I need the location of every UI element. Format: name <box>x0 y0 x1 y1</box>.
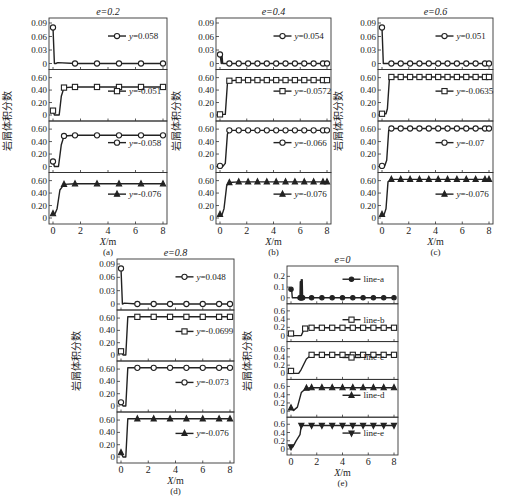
data-point-marker <box>340 423 345 428</box>
y-tick-label: 0.20 <box>198 201 214 211</box>
data-point-marker <box>311 179 316 184</box>
legend-label: y=-0.076 <box>128 189 162 199</box>
data-point-marker <box>167 416 172 421</box>
data-point-marker <box>283 78 288 83</box>
data-point-marker <box>283 128 288 133</box>
y-tick-label: 0.60 <box>198 124 214 134</box>
data-point-marker <box>311 61 316 66</box>
y-tick-label: 0 <box>281 293 286 303</box>
legend-label: y=-0.0699 <box>196 326 234 336</box>
data-point-marker <box>398 61 403 66</box>
data-point-marker <box>50 25 55 30</box>
y-tick-label: 0.60 <box>360 73 376 83</box>
data-point-marker <box>292 179 297 184</box>
data-point-marker <box>398 176 403 181</box>
data-point-marker <box>61 133 66 138</box>
panel-title: e=0.4 <box>262 6 286 17</box>
legend-entry: y=-0.076 <box>436 189 490 199</box>
subplot-1: 00.10.2line-a <box>274 266 398 304</box>
data-point-marker <box>264 61 269 66</box>
data-point-marker <box>50 211 55 216</box>
data-point-marker <box>200 314 205 319</box>
x-tick-label: 6 <box>460 225 465 236</box>
data-point-marker <box>274 78 279 83</box>
legend-entry: y=-0.066 <box>274 138 328 148</box>
data-point-marker <box>217 314 222 319</box>
data-point-marker <box>389 74 394 79</box>
x-axis-label: X/m <box>166 475 184 486</box>
data-point-marker <box>135 301 140 306</box>
data-point-marker <box>302 128 307 133</box>
data-point-marker <box>227 365 232 370</box>
y-tick-label: 0.60 <box>31 176 47 186</box>
y-tick-label: 0.03 <box>99 286 115 296</box>
y-tick-label: 0.06 <box>99 272 115 282</box>
y-tick-label: 0.40 <box>198 188 214 198</box>
data-point-marker <box>381 385 386 390</box>
data-point-marker <box>351 296 355 300</box>
y-tick-label: 0.20 <box>360 149 376 159</box>
subplot-3: 00.200.400.60y=-0.058 <box>31 121 167 173</box>
data-point-marker <box>303 326 308 331</box>
y-tick-label: 0.6 <box>274 381 286 391</box>
x-tick-label: 4 <box>271 225 276 236</box>
data-point-marker <box>379 211 384 216</box>
x-axis-label: X/m <box>264 236 282 247</box>
x-tick-label: 6 <box>133 225 138 236</box>
data-point-marker <box>227 314 232 319</box>
y-tick-label: 0.60 <box>31 124 47 134</box>
data-point-marker <box>392 296 396 300</box>
y-tick-label: 0.20 <box>99 440 115 450</box>
legend-marker <box>442 33 447 38</box>
x-tick-label: 4 <box>340 456 345 467</box>
legend-entry: line-a <box>343 274 385 284</box>
y-tick-label: 0.40 <box>31 85 47 95</box>
data-point-marker <box>398 74 403 79</box>
data-point-marker <box>426 176 431 181</box>
x-tick-label: 0 <box>119 464 124 475</box>
figure-canvas: e=0.200.030.060.09y=0.05800.200.400.60y=… <box>0 0 507 498</box>
data-point-marker <box>473 176 478 181</box>
y-tick-label: 0.60 <box>99 364 115 374</box>
data-point-marker <box>302 179 307 184</box>
panel-a: e=0.200.030.060.09y=0.05800.200.400.60y=… <box>1 6 167 257</box>
legend-label: line-d <box>364 390 385 400</box>
y-tick-label: 0.40 <box>360 188 376 198</box>
legend-marker <box>114 140 119 145</box>
data-point-marker <box>426 61 431 66</box>
data-point-marker <box>299 423 304 428</box>
data-point-marker <box>50 159 55 164</box>
y-tick-label: 0.2 <box>274 271 285 281</box>
data-point-marker <box>417 61 422 66</box>
legend-marker <box>442 140 447 145</box>
data-point-marker <box>217 301 222 306</box>
y-tick-label: 0 <box>43 162 48 172</box>
x-axis-label: X/m <box>99 236 117 247</box>
x-tick-label: 0 <box>289 456 294 467</box>
x-tick-label: 2 <box>406 225 411 236</box>
data-point-marker <box>350 325 355 330</box>
y-tick-label: 0.60 <box>99 313 115 323</box>
data-point-marker <box>61 85 66 90</box>
data-point-marker <box>324 61 329 66</box>
subplot-2: 00.200.400.60y=-0.051 <box>31 70 167 122</box>
data-point-marker <box>417 126 422 131</box>
data-point-marker <box>292 61 297 66</box>
y-tick-label: 0 <box>372 213 377 223</box>
data-point-marker <box>289 287 293 291</box>
data-point-marker <box>50 108 55 113</box>
data-point-marker <box>283 179 288 184</box>
data-point-marker <box>118 349 123 354</box>
x-tick-label: 8 <box>161 225 166 236</box>
y-tick-label: 0.60 <box>198 73 214 83</box>
data-point-marker <box>320 296 324 300</box>
data-point-marker <box>217 365 222 370</box>
data-point-marker <box>283 61 288 66</box>
data-point-marker <box>436 61 441 66</box>
y-tick-label: 0.6 <box>274 344 286 354</box>
y-tick-label: 0 <box>210 59 215 69</box>
legend-entry: y=-0.0572 <box>274 86 332 96</box>
subplot-3: 00.200.400.60y=-0.07 <box>360 121 493 173</box>
subplot-3: 00.200.400.60y=-0.066 <box>198 121 331 173</box>
data-point-marker <box>302 61 307 66</box>
